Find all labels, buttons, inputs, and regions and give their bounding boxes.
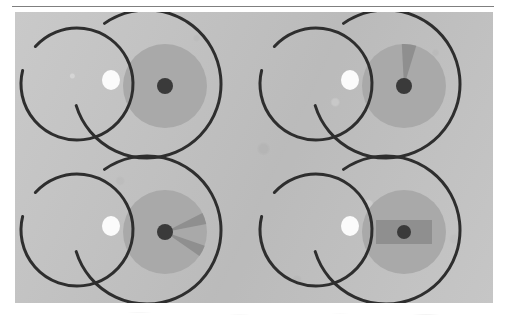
cell-top-right — [254, 12, 493, 157]
cell-bottom-right — [254, 158, 493, 303]
cell-top-right-canvas — [254, 12, 493, 157]
cell-top-left-canvas — [15, 12, 254, 157]
cell-top-left — [15, 12, 254, 157]
page-bottom-smudge — [15, 305, 493, 323]
cell-top-right-core — [396, 78, 412, 94]
cell-top-left-crossing-spot — [102, 70, 120, 90]
cell-bottom-left-canvas — [15, 158, 254, 303]
cell-bottom-left — [15, 158, 254, 303]
cell-bottom-right-crossing-spot — [341, 216, 359, 236]
cell-bottom-right-core — [397, 225, 411, 239]
cell-bottom-left-core — [157, 224, 173, 240]
figure-panel — [15, 12, 493, 303]
figure-root — [0, 0, 505, 325]
cell-top-left-core — [157, 78, 173, 94]
cell-bottom-right-canvas — [254, 158, 493, 303]
page-header-rule — [12, 6, 494, 7]
cell-bottom-left-crossing-spot — [102, 216, 120, 236]
cell-top-right-crossing-spot — [341, 70, 359, 90]
